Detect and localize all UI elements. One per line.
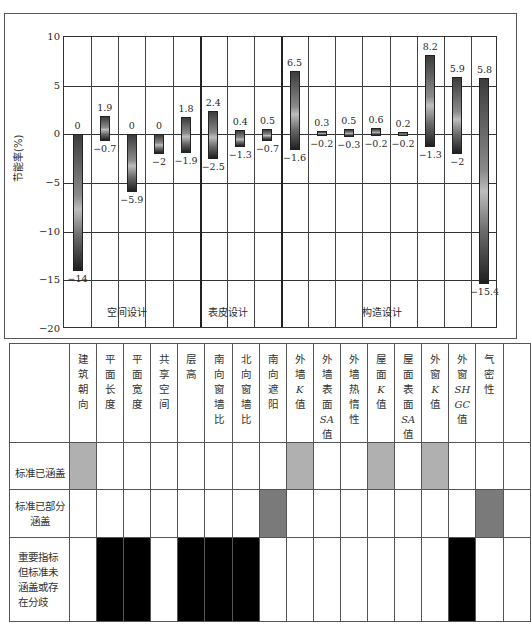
- bar-气密性: [479, 78, 489, 284]
- v-gridline: [308, 37, 309, 327]
- empty-cell: [340, 490, 367, 538]
- v-gridline: [200, 37, 202, 327]
- filled-cell: [422, 443, 449, 490]
- y-tick-label: −5: [30, 177, 60, 188]
- bar-层高: [181, 117, 191, 153]
- y-axis-label: 节能率(%): [10, 135, 25, 182]
- empty-cell: [286, 490, 313, 538]
- bar-max-label: 0: [117, 120, 147, 131]
- table-row-missing: 重要指标 但标准未 涵盖或存 在分歧: [10, 538, 531, 622]
- bar-min-label: −1.3: [415, 149, 445, 160]
- empty-cell: [97, 490, 124, 538]
- bar-min-label: −14: [63, 273, 93, 284]
- bar-外墙热惰性: [344, 129, 354, 137]
- column-header: 屋面K值: [368, 344, 395, 443]
- v-gridline: [390, 37, 391, 327]
- empty-cell: [151, 443, 178, 490]
- bar-min-label: −1.6: [280, 152, 310, 163]
- bar-南向遮阳: [262, 129, 272, 141]
- filled-cell: [205, 538, 232, 622]
- table-row-partial: 标准已部分 涵盖: [10, 490, 531, 538]
- v-gridline: [118, 37, 119, 327]
- v-gridline: [227, 37, 228, 327]
- y-tick-label: −10: [30, 225, 60, 236]
- empty-cell: [259, 443, 286, 490]
- bar-max-label: 0: [144, 120, 174, 131]
- bar-建筑朝向: [73, 134, 83, 270]
- empty-cell: [313, 490, 340, 538]
- bar-min-label: −0.7: [90, 143, 120, 154]
- column-header: 平面长度: [97, 344, 124, 443]
- column-header: 外窗SHGC值: [449, 344, 476, 443]
- bar-min-label: −2.5: [198, 161, 228, 172]
- coverage-table: 建筑朝向平面长度平面宽度共享空间层高南向窗墙比北向窗墙比南向遮阳外墙K值外墙表面…: [9, 343, 531, 622]
- bar-min-label: −1.9: [171, 155, 201, 166]
- column-header: 外墙K值: [286, 344, 313, 443]
- empty-cell: [151, 538, 178, 622]
- plot-area: 0−141.9−0.70−5.90−21.8−1.92.4−2.50.4−1.3…: [63, 36, 497, 328]
- filled-cell: [449, 538, 476, 622]
- bar-min-label: −15.4: [469, 286, 499, 297]
- empty-cell: [340, 443, 367, 490]
- group-label: 表皮设计: [208, 304, 248, 319]
- empty-cell: [205, 443, 232, 490]
- h-gridline: [64, 232, 496, 233]
- bar-屋面K值: [371, 128, 381, 136]
- bar-max-label: 5.9: [442, 63, 472, 74]
- empty-cell: [422, 490, 449, 538]
- filled-cell: [124, 538, 151, 622]
- empty-cell: [124, 490, 151, 538]
- bar-屋面表面SA值: [398, 132, 408, 136]
- column-header: 平面宽度: [124, 344, 151, 443]
- empty-cell: [124, 443, 151, 490]
- bar-max-label: 0.2: [388, 118, 418, 129]
- bar-min-label: −0.2: [307, 138, 337, 149]
- corner-cell: [10, 344, 70, 443]
- bar-min-label: −0.2: [361, 138, 391, 149]
- bar-外墙表面SA值: [317, 131, 327, 136]
- empty-header-cell: [503, 344, 530, 443]
- v-gridline: [281, 37, 283, 327]
- filled-cell: [232, 538, 259, 622]
- bar-max-label: 0.5: [252, 115, 282, 126]
- filled-cell: [286, 443, 313, 490]
- y-tick-label: 0: [30, 128, 60, 139]
- row-label-partial: 标准已部分 涵盖: [10, 490, 70, 538]
- filled-cell: [368, 443, 395, 490]
- bar-北向窗墙比: [235, 130, 245, 147]
- group-label: 构造设计: [362, 304, 402, 319]
- empty-cell: [259, 538, 286, 622]
- bar-min-label: −0.3: [334, 139, 364, 150]
- filled-cell: [259, 490, 286, 538]
- v-gridline: [417, 37, 418, 327]
- bar-max-label: 8.2: [415, 41, 445, 52]
- bar-max-label: 6.5: [280, 57, 310, 68]
- column-header: 外墙表面SA值: [313, 344, 340, 443]
- row-label-missing: 重要指标 但标准未 涵盖或存 在分歧: [10, 538, 70, 622]
- bar-南向窗墙比: [208, 111, 218, 159]
- empty-cell: [70, 538, 97, 622]
- group-label: 空间设计: [107, 304, 147, 319]
- empty-cell: [395, 443, 422, 490]
- empty-cell: [232, 490, 259, 538]
- empty-cell: [205, 490, 232, 538]
- bar-min-label: −5.9: [117, 194, 147, 205]
- bar-min-label: −0.7: [252, 143, 282, 154]
- empty-cell: [503, 538, 530, 622]
- empty-cell: [178, 443, 205, 490]
- empty-cell: [151, 490, 178, 538]
- empty-cell: [232, 443, 259, 490]
- filled-cell: [97, 538, 124, 622]
- column-header: 南向窗墙比: [205, 344, 232, 443]
- y-tick-label: 10: [30, 31, 60, 42]
- column-header: 气密性: [476, 344, 503, 443]
- empty-cell: [70, 490, 97, 538]
- table-row-covered: 标准已涵盖: [10, 443, 531, 490]
- bar-max-label: 0: [63, 120, 93, 131]
- bar-平面长度: [100, 116, 110, 141]
- filled-cell: [178, 538, 205, 622]
- empty-cell: [368, 538, 395, 622]
- v-gridline: [362, 37, 363, 327]
- filled-cell: [70, 443, 97, 490]
- bar-min-label: −0.2: [388, 138, 418, 149]
